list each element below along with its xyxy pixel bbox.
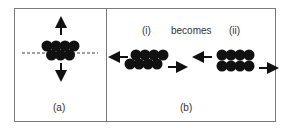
panel-a-label: (a) [53,102,65,113]
panel-b-i-graphic [114,50,182,70]
becomes-label: becomes [171,25,212,36]
atom-cluster-square [217,50,255,72]
diagram-graphics [0,0,286,128]
sub-ii-label: (ii) [229,25,240,36]
atom-cluster-close-packed [42,41,80,61]
sub-i-label: (i) [142,25,151,36]
panel-b-ii-graphic [198,50,273,72]
panel-a-graphic [22,22,98,76]
panel-b-label: (b) [180,102,192,113]
atom-cluster-sheared [125,50,169,70]
